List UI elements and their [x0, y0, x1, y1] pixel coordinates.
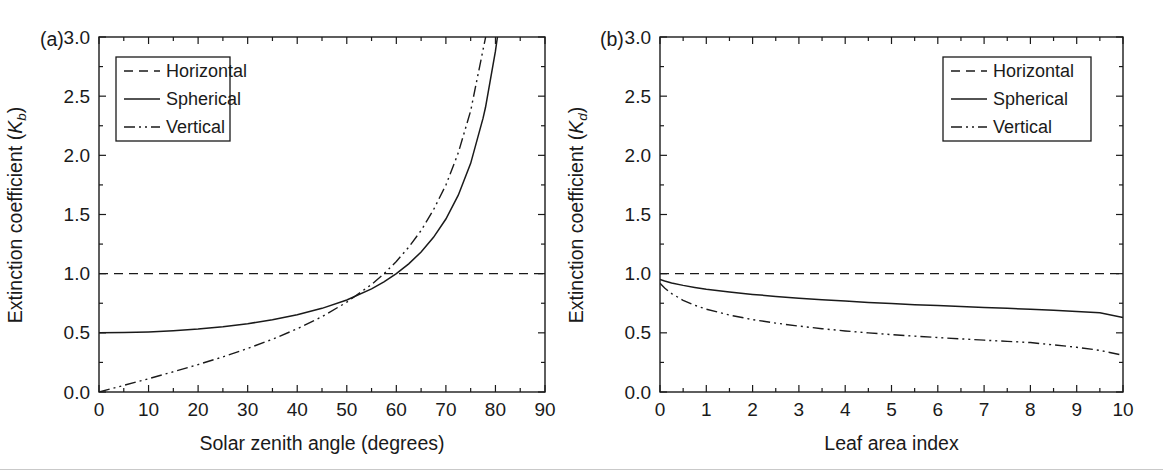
legend-label-spherical: Spherical	[993, 89, 1068, 109]
x-tick-label: 60	[386, 399, 407, 420]
panel-label-b: (b)	[600, 28, 624, 50]
x-tick-label: 0	[655, 399, 666, 420]
legend-label-horizontal: Horizontal	[166, 61, 247, 81]
x-tick-label: 9	[1071, 399, 1082, 420]
x-tick-label: 3	[794, 399, 805, 420]
legend-label-horizontal: Horizontal	[993, 61, 1074, 81]
figure-container: 01020304050607080900.00.51.01.52.02.53.0…	[0, 0, 1163, 475]
x-tick-label: 50	[336, 399, 357, 420]
x-tick-label: 30	[237, 399, 258, 420]
y-tick-label: 1.0	[64, 263, 90, 284]
y-tick-label: 3.0	[625, 27, 651, 48]
x-tick-label: 20	[188, 399, 209, 420]
legend-label-vertical: Vertical	[993, 117, 1052, 137]
legend-label-spherical: Spherical	[166, 89, 241, 109]
y-tick-label: 2.0	[64, 145, 90, 166]
y-tick-label: 0.0	[625, 382, 651, 403]
y-tick-label: 1.5	[64, 204, 90, 225]
y-tick-label: 2.5	[625, 86, 651, 107]
x-tick-label: 10	[138, 399, 159, 420]
y-tick-label: 3.0	[64, 27, 90, 48]
two-panel-line-chart: 01020304050607080900.00.51.01.52.02.53.0…	[0, 0, 1163, 475]
x-axis-title: Solar zenith angle (degrees)	[200, 432, 445, 454]
x-tick-label: 6	[933, 399, 944, 420]
y-tick-label: 2.5	[64, 86, 90, 107]
legend-label-vertical: Vertical	[166, 117, 225, 137]
x-axis-title: Leaf area index	[824, 432, 959, 454]
x-tick-label: 90	[534, 399, 555, 420]
x-tick-label: 40	[287, 399, 308, 420]
y-axis-title: Extinction coefficient (Kb)	[4, 107, 29, 323]
x-tick-label: 80	[485, 399, 506, 420]
x-tick-label: 5	[886, 399, 897, 420]
x-tick-label: 2	[747, 399, 758, 420]
x-tick-label: 1	[701, 399, 712, 420]
bottom-divider-rule	[0, 469, 1163, 470]
y-tick-label: 0.0	[64, 382, 90, 403]
x-tick-label: 4	[840, 399, 851, 420]
legend-b: HorizontalSphericalVertical	[943, 57, 1091, 141]
y-tick-label: 2.0	[625, 145, 651, 166]
y-tick-label: 0.5	[625, 322, 651, 343]
y-tick-label: 1.0	[625, 263, 651, 284]
y-axis-title: Extinction coefficient (Kd)	[565, 107, 590, 323]
x-tick-label: 70	[435, 399, 456, 420]
x-tick-label: 0	[94, 399, 105, 420]
x-tick-label: 10	[1112, 399, 1133, 420]
x-tick-label: 8	[1025, 399, 1036, 420]
y-tick-label: 1.5	[625, 204, 651, 225]
y-tick-label: 0.5	[64, 322, 90, 343]
panel-label-a: (a)	[40, 28, 64, 50]
x-tick-label: 7	[979, 399, 990, 420]
legend-a: HorizontalSphericalVertical	[116, 57, 247, 141]
